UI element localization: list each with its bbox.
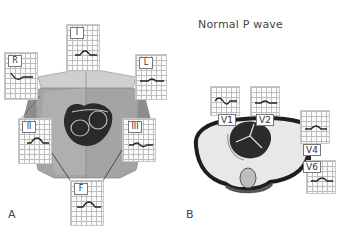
- panel-label-b: B: [186, 208, 194, 221]
- ecg-strip-lead-f: F: [70, 180, 104, 226]
- ecg-strip-lead-v4: [300, 110, 330, 144]
- panel-a: I R L II III F A: [0, 0, 170, 228]
- ecg-strip-lead-i: I: [66, 24, 100, 72]
- lead-label-v1: V1: [218, 114, 236, 126]
- lead-label-r: R: [8, 55, 22, 67]
- panel-b: V1 V2 V4 V6 B: [170, 0, 337, 228]
- lead-label-v4: V4: [303, 144, 321, 156]
- ecg-strip-lead-v2: [250, 86, 280, 116]
- ecg-strip-lead-ii: II: [18, 118, 52, 164]
- ecg-strip-lead-iii: III: [122, 118, 156, 162]
- lead-label-ii: II: [22, 121, 36, 133]
- ecg-strip-lead-r: R: [4, 52, 38, 100]
- lead-label-i: I: [70, 27, 84, 39]
- lead-label-iii: III: [128, 121, 142, 133]
- lead-label-v6: V6: [303, 161, 321, 173]
- ecg-strip-lead-v1: [210, 86, 240, 116]
- lead-label-f: F: [74, 183, 88, 195]
- lead-label-l: L: [139, 57, 153, 69]
- ecg-strip-lead-l: L: [135, 54, 167, 100]
- panel-label-a: A: [8, 208, 16, 221]
- lead-label-v2: V2: [256, 114, 274, 126]
